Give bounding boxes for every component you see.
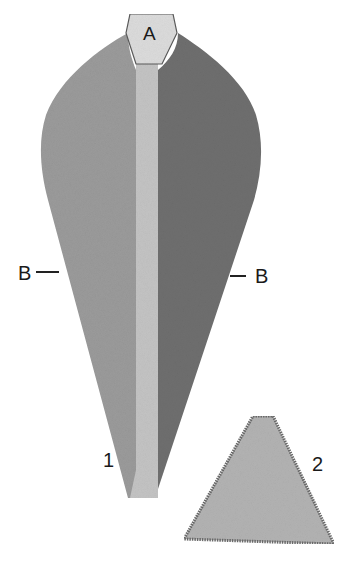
tip-label-a: A <box>143 24 156 43</box>
edge-label-left-b: B <box>18 263 31 283</box>
leader-line-right <box>230 275 246 277</box>
blade-left-face <box>41 33 136 498</box>
diagram-canvas <box>0 0 350 575</box>
trapezoid-shape <box>184 416 334 544</box>
part-1-blade <box>41 14 261 498</box>
edge-label-right-b: B <box>255 266 268 286</box>
leader-line-left <box>36 271 59 273</box>
part-number-1: 1 <box>103 450 114 470</box>
part-number-2: 2 <box>312 454 323 474</box>
part-2-trapezoid <box>184 416 334 544</box>
